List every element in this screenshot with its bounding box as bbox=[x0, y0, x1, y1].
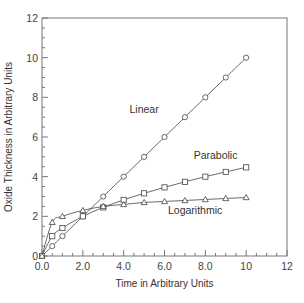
x-tick-label: 10 bbox=[240, 260, 252, 272]
square-marker-icon bbox=[244, 165, 249, 170]
x-tick-label: 8.0 bbox=[198, 260, 213, 272]
x-axis-title: Time in Arbitrary Units bbox=[116, 278, 214, 289]
y-tick-label: 6 bbox=[32, 131, 38, 143]
triangle-marker-icon bbox=[243, 194, 249, 199]
series-label-logarithmic: Logarithmic bbox=[168, 204, 222, 216]
square-marker-icon bbox=[182, 179, 187, 184]
oxide-growth-chart: 0.02.04.06.08.01012 024681012 LinearPara… bbox=[0, 0, 304, 303]
circle-marker-icon bbox=[182, 115, 187, 120]
series-label-parabolic: Parabolic bbox=[194, 149, 238, 161]
y-tick-label: 0 bbox=[32, 250, 38, 262]
circle-marker-icon bbox=[203, 95, 208, 100]
circle-marker-icon bbox=[121, 174, 126, 179]
y-tick-label: 12 bbox=[26, 12, 38, 24]
square-marker-icon bbox=[50, 234, 55, 239]
x-tick-label: 12 bbox=[281, 260, 293, 272]
circle-marker-icon bbox=[223, 75, 228, 80]
square-marker-icon bbox=[162, 185, 167, 190]
y-tick-label: 8 bbox=[32, 91, 38, 103]
y-tick-label: 10 bbox=[26, 52, 38, 64]
x-tick-label: 6.0 bbox=[157, 260, 172, 272]
square-marker-icon bbox=[141, 191, 146, 196]
y-tick-label: 2 bbox=[32, 210, 38, 222]
square-marker-icon bbox=[203, 174, 208, 179]
triangle-marker-icon bbox=[49, 219, 55, 224]
y-tick-label: 4 bbox=[32, 171, 38, 183]
y-axis-ticks: 024681012 bbox=[26, 12, 48, 262]
square-marker-icon bbox=[60, 225, 65, 230]
circle-marker-icon bbox=[101, 194, 106, 199]
x-axis-ticks: 0.02.04.06.08.01012 bbox=[35, 250, 293, 272]
square-marker-icon bbox=[223, 169, 228, 174]
circle-marker-icon bbox=[141, 154, 146, 159]
series-label-linear: Linear bbox=[129, 103, 159, 115]
circle-marker-icon bbox=[244, 55, 249, 60]
x-tick-label: 2.0 bbox=[76, 260, 91, 272]
square-marker-icon bbox=[80, 214, 85, 219]
circle-marker-icon bbox=[60, 234, 65, 239]
circle-marker-icon bbox=[162, 134, 167, 139]
x-tick-label: 4.0 bbox=[116, 260, 131, 272]
y-axis-title: Oxide Thickness in Arbitrary Units bbox=[3, 62, 14, 212]
circle-marker-icon bbox=[50, 243, 55, 248]
